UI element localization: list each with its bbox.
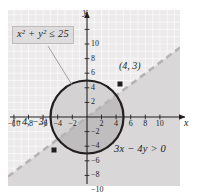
y-tick-label: −6	[91, 157, 100, 165]
y-tick-label: 8	[91, 55, 95, 63]
x-tick-label: 8	[143, 120, 147, 128]
x-tick-label: 10	[156, 120, 164, 128]
y-tick-label: 2	[91, 98, 95, 106]
y-tick-label: −8	[91, 171, 100, 179]
x-tick-label: −6	[39, 120, 48, 128]
point-marker-a[interactable]	[118, 82, 123, 87]
graph-figure: x² + y² ≤ 25 3x − 4y > 0 (4, 3) (−4, −3)…	[0, 0, 198, 196]
x-tick-label: 4	[114, 120, 118, 128]
y-axis-label: y	[83, 6, 87, 17]
line-inequality-label: 3x − 4y > 0	[114, 144, 166, 155]
y-tick-label: −4	[91, 142, 100, 150]
leader-line-circle-label	[48, 46, 72, 85]
y-tick-label: −2	[91, 128, 100, 136]
point-a-label: (4, 3)	[119, 61, 141, 71]
x-axis-label: x	[184, 117, 188, 128]
y-tick-label: 6	[91, 69, 95, 77]
y-tick-label: 4	[91, 84, 95, 92]
line-inequality-text: 3x − 4y > 0	[114, 143, 166, 154]
x-tick-label: −4	[54, 120, 63, 128]
circle-inequality-label: x² + y² ≤ 25	[12, 26, 74, 44]
x-tick-label: 2	[100, 120, 104, 128]
x-tick-label: −10	[8, 120, 21, 128]
y-tick-label: 10	[91, 40, 99, 48]
point-marker-b[interactable]	[52, 148, 57, 153]
x-tick-label: 6	[129, 120, 133, 128]
circle-inequality-text: x² + y² ≤ 25	[17, 28, 69, 39]
y-tick-label: −10	[91, 186, 104, 194]
x-tick-label: −2	[68, 120, 77, 128]
x-tick-label: −8	[24, 120, 33, 128]
